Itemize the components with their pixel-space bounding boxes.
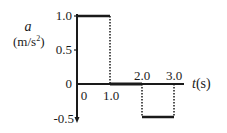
y-axis-unit: (m/s2)	[13, 34, 44, 49]
x-tick-label-1: 1.0	[103, 88, 119, 103]
y-tick-label-05: 0.5	[56, 42, 72, 57]
x-tick-label-2: 2.0	[134, 68, 150, 83]
x-origin-label: 0	[81, 88, 88, 103]
y-tick-label-1: 1.0	[56, 8, 72, 23]
acceleration-time-chart: 1.0 0.5 0 -0.5 a (m/s2) 0 1.0 2.0 3.0 t(…	[0, 0, 227, 133]
y-axis-arrow	[75, 117, 80, 123]
y-origin-label: 0	[66, 76, 73, 91]
x-axis-label: t(s)	[192, 76, 211, 92]
x-tick-label-3: 3.0	[166, 68, 182, 83]
y-axis-var: a	[25, 19, 32, 34]
y-tick-label-neg05: -0.5	[53, 111, 74, 126]
